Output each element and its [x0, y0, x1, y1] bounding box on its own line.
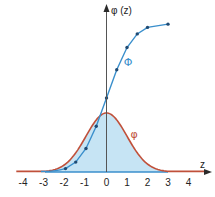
x-tick-label: 0 [104, 177, 110, 188]
cdf-data-point [166, 22, 169, 25]
y-axis-label: φ (z) [111, 5, 132, 16]
x-tick-label: 2 [145, 177, 151, 188]
x-tick-labels: -4-3-2-101234 [19, 177, 192, 188]
x-tick-label: 1 [124, 177, 130, 188]
cdf-data-point [84, 147, 87, 150]
cdf-data-point [136, 32, 139, 35]
cdf-data-point [146, 26, 149, 29]
x-tick-label: -3 [39, 177, 48, 188]
pdf-series-label: φ [131, 128, 138, 141]
x-axis-label: z [200, 159, 205, 170]
cdf-data-point [64, 167, 67, 170]
y-axis-arrow-icon [104, 4, 110, 12]
x-tick-label: 3 [165, 177, 171, 188]
x-tick-label: -2 [60, 177, 69, 188]
x-axis-arrow-icon [204, 169, 212, 175]
x-tick-label: -1 [80, 177, 89, 188]
x-tick-label: 4 [186, 177, 192, 188]
cdf-data-point [74, 160, 77, 163]
cdf-data-point [115, 68, 118, 71]
cdf-data-point [95, 125, 98, 128]
x-tick-label: -4 [19, 177, 28, 188]
cdf-data-point [125, 46, 128, 49]
normal-distribution-chart: -4-3-2-101234 φ (z) z Φ φ [0, 0, 215, 197]
cdf-series-label: Φ [124, 56, 133, 69]
